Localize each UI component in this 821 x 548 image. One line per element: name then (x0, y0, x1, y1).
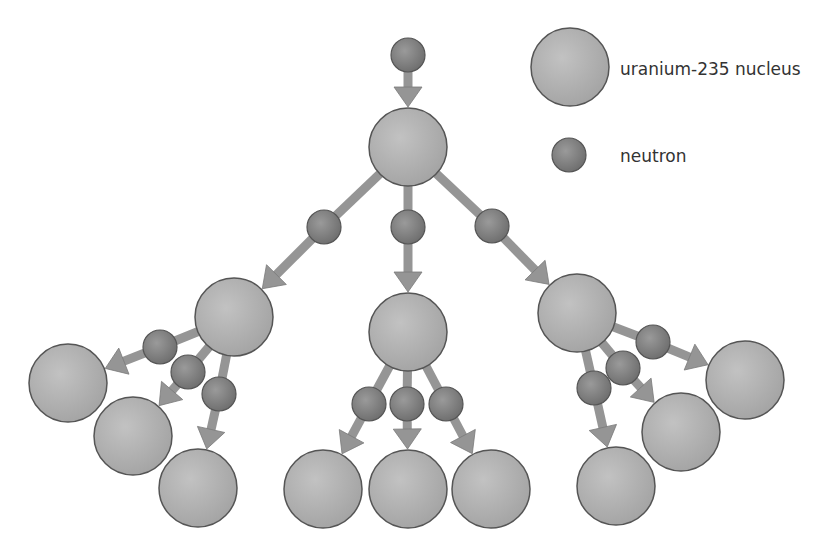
arrow-head-icon (393, 429, 421, 449)
arrow-head-icon (589, 424, 616, 447)
uranium-nucleus (94, 397, 172, 475)
uranium-nucleus (369, 293, 447, 371)
chain-reaction-diagram (0, 0, 821, 548)
legend (531, 28, 609, 172)
uranium-nucleus (706, 341, 784, 419)
neutron (143, 330, 177, 364)
uranium-nucleus (369, 108, 447, 186)
neutron (171, 355, 205, 389)
neutron (307, 210, 341, 244)
neutron (636, 325, 670, 359)
legend-neutron-icon (552, 138, 586, 172)
arrow-head-icon (197, 426, 224, 449)
uranium-nucleus (369, 450, 447, 528)
uranium-nucleus (284, 450, 362, 528)
legend-nucleus-icon (531, 28, 609, 106)
uranium-nucleus (159, 449, 237, 527)
uranium-nucleus (452, 450, 530, 528)
legend-nucleus-label: uranium-235 nucleus (620, 59, 801, 79)
neutron (390, 387, 424, 421)
arrow-head-icon (394, 87, 422, 107)
neutron (606, 351, 640, 385)
uranium-nucleus (577, 447, 655, 525)
neutron (391, 38, 425, 72)
neutron (352, 387, 386, 421)
neutron (429, 387, 463, 421)
neutron (202, 377, 236, 411)
neutron (577, 371, 611, 405)
neutron (475, 209, 509, 243)
uranium-nucleus (642, 393, 720, 471)
neutron (391, 210, 425, 244)
uranium-nucleus (538, 274, 616, 352)
arrow-head-icon (394, 272, 422, 292)
uranium-nucleus (195, 278, 273, 356)
nuclei-layer (29, 108, 784, 528)
legend-neutron-label: neutron (620, 146, 686, 166)
uranium-nucleus (29, 344, 107, 422)
